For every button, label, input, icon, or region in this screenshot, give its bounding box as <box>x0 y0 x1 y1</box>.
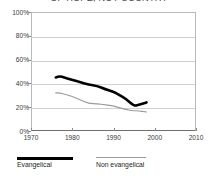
chart-container: OF HOPE, NOT COUNTRY 0%20%40%60%80%100% … <box>0 0 218 184</box>
chart-legend: EvangelicalNon evangelical <box>0 152 218 184</box>
x-axis-tick-label: 1980 <box>57 134 87 142</box>
x-axis-tick-label: 2010 <box>181 134 211 142</box>
y-axis-tick-label: 80% <box>1 32 29 39</box>
legend-swatch <box>96 157 146 158</box>
x-axis-tick-label: 1970 <box>16 134 46 142</box>
legend-label: Evangelical <box>17 161 52 168</box>
x-axis-tick-label: 1990 <box>99 134 129 142</box>
y-axis-tick-label: 20% <box>1 104 29 111</box>
series-line-non-evangelical <box>56 93 147 112</box>
y-axis-tick-label: 60% <box>1 56 29 63</box>
series-line-evangelical <box>56 77 147 106</box>
x-axis-tick-label: 2000 <box>140 134 170 142</box>
chart-title: OF HOPE, NOT COUNTRY <box>0 0 218 2</box>
y-axis-tick-label: 40% <box>1 80 29 87</box>
y-axis-tick-label: 100% <box>1 9 29 16</box>
legend-swatch <box>17 157 73 160</box>
x-axis-tick <box>155 128 156 131</box>
legend-label: Non evangelical <box>96 161 144 168</box>
x-axis-tick <box>114 128 115 131</box>
x-axis-tick <box>72 128 73 131</box>
data-series-layer <box>31 12 196 131</box>
x-axis-tick <box>31 128 32 131</box>
x-axis-tick <box>196 128 197 131</box>
y-axis-tick <box>28 131 31 132</box>
